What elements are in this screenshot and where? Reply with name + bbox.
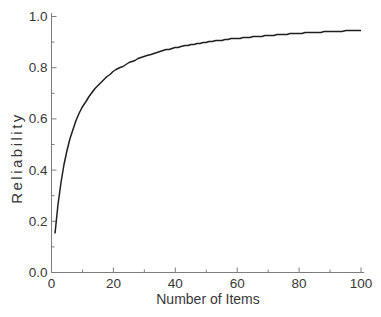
x-tick-label: 40: [168, 276, 183, 291]
y-tick-label: 0.6: [29, 111, 48, 126]
x-tick-label: 100: [350, 276, 373, 291]
x-tick-labels: 020406080100: [48, 276, 373, 291]
x-tick-label: 20: [106, 276, 121, 291]
y-tick-label: 0.4: [29, 163, 48, 178]
x-tick-label: 0: [48, 276, 56, 291]
y-axis-title: Reliability: [8, 112, 25, 204]
series-layer: [55, 31, 361, 234]
reliability-line-chart: 020406080100 0.00.20.40.60.81.0 Number o…: [0, 0, 381, 317]
x-tick-label: 60: [230, 276, 245, 291]
y-tick-label: 0.0: [29, 265, 48, 280]
y-tick-label: 1.0: [29, 9, 48, 24]
x-axis-title: Number of Items: [156, 291, 259, 307]
y-tick-label: 0.2: [29, 214, 48, 229]
y-tick-labels: 0.00.20.40.60.81.0: [29, 9, 48, 280]
x-tick-label: 80: [292, 276, 307, 291]
axes: [52, 13, 365, 273]
axis-spines: [52, 13, 365, 273]
reliability-curve: [55, 31, 361, 234]
ticks: [52, 17, 362, 273]
figure: 020406080100 0.00.20.40.60.81.0 Number o…: [0, 0, 381, 317]
y-tick-label: 0.8: [29, 60, 48, 75]
